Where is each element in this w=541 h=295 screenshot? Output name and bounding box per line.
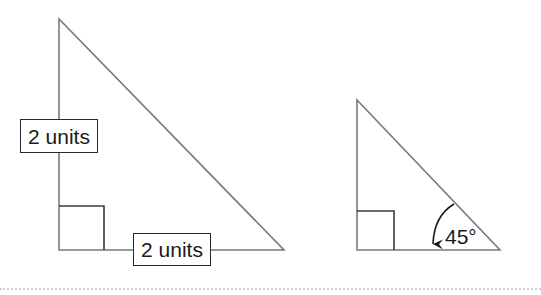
vertical-leg-label: 2 units [20, 119, 98, 153]
right-triangle [357, 100, 500, 250]
bottom-divider [0, 288, 541, 290]
right-right-angle-marker [357, 211, 394, 250]
diagram-canvas: 2 units 2 units 45° [0, 0, 541, 295]
horizontal-leg-label: 2 units [133, 233, 211, 266]
angle-45-label: 45° [445, 226, 477, 247]
left-right-angle-marker [59, 206, 104, 250]
right-triangle-outline [357, 100, 500, 250]
